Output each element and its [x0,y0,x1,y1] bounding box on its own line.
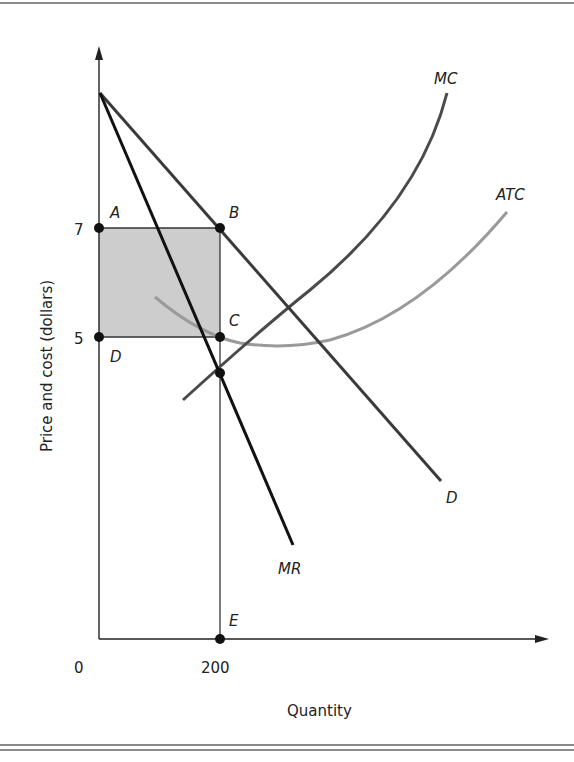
monopoly-profit-chart: 7 5 0 200 A B C D E MC ATC D MR Quantity… [0,0,574,762]
point-e-label: E [229,612,239,630]
y-tick-7: 7 [74,221,84,239]
origin-label: 0 [74,659,84,677]
point-b-dot [215,223,225,233]
atc-label: ATC [495,186,525,204]
point-c-dot [215,332,225,342]
frame-bottom-rule [0,744,574,746]
point-c-label: C [229,312,240,330]
y-tick-5: 5 [74,330,84,348]
x-axis-arrow-icon [535,635,549,643]
point-b-label: B [229,204,239,222]
mr-label: MR [278,560,301,578]
demand-label: D [446,489,458,507]
mc-curve [183,93,447,400]
y-axis-arrow-icon [95,46,103,60]
point-e-dot [215,634,225,644]
frame-bottom-rule-2 [0,749,574,751]
point-d-label: D [110,348,122,366]
point-a-dot [94,223,104,233]
point-a-label: A [109,204,120,222]
mr-mc-intersection-dot [215,368,225,378]
y-axis-title: Price and cost (dollars) [38,280,56,452]
mc-label: MC [434,70,458,88]
x-tick-200: 200 [201,659,230,677]
profit-rectangle [99,228,220,337]
point-d-dot [94,332,104,342]
x-axis-title: Quantity [287,702,352,720]
